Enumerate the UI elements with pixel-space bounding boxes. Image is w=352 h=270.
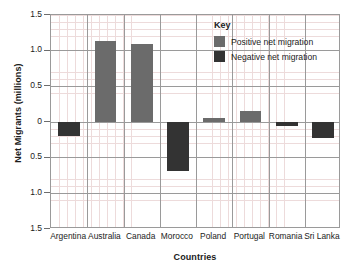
- y-tick-mark: [44, 192, 50, 193]
- legend-title: Key: [214, 20, 317, 30]
- bar-chart: Net Migrants (millions) 1.51.00.500.51.0…: [0, 0, 352, 270]
- bar-morocco: [167, 122, 189, 171]
- y-tick-mark: [44, 50, 50, 51]
- y-tick-mark: [44, 157, 50, 158]
- y-tick-label: 1.5: [10, 9, 42, 19]
- y-axis-title: Net Migrants (millions): [13, 33, 23, 193]
- bar-sri-lanka: [312, 122, 334, 138]
- bar-australia: [95, 41, 117, 122]
- y-tick-label: 1.0: [10, 187, 42, 197]
- y-tick-label: 0.5: [10, 151, 42, 161]
- y-tick-label: 0: [10, 116, 42, 126]
- y-tick-label: 0.5: [10, 80, 42, 90]
- y-tick-label: 1.0: [10, 44, 42, 54]
- y-tick-mark: [44, 14, 50, 15]
- gridline-y-1.0: [51, 193, 339, 194]
- legend-label-positive: Positive net migration: [231, 37, 313, 47]
- bar-portugal: [240, 111, 262, 122]
- x-category-label-sri-lanka: Sri Lanka: [282, 231, 352, 241]
- gridline-y-0.5: [51, 157, 339, 158]
- bar-romania: [276, 122, 298, 126]
- x-axis-title: Countries: [50, 252, 340, 262]
- y-tick-mark: [44, 228, 50, 229]
- bar-canada: [131, 44, 153, 122]
- legend: Key Positive net migration Negative net …: [214, 20, 317, 66]
- legend-label-negative: Negative net migration: [231, 52, 317, 62]
- legend-swatch-negative-icon: [214, 51, 225, 62]
- legend-item-positive: Positive net migration: [214, 36, 317, 47]
- y-tick-mark: [44, 85, 50, 86]
- bar-poland: [203, 118, 225, 122]
- y-tick-mark: [44, 121, 50, 122]
- bar-argentina: [58, 122, 80, 136]
- legend-swatch-positive-icon: [214, 36, 225, 47]
- legend-item-negative: Negative net migration: [214, 51, 317, 62]
